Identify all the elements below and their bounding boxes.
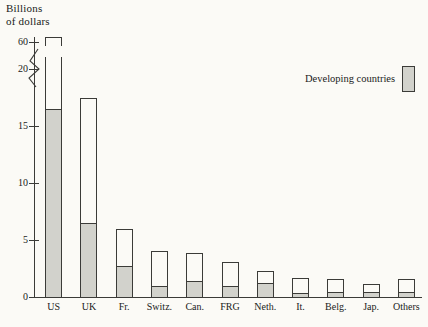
x-axis-label-frg: FRG	[220, 301, 239, 312]
bar-group-frg	[222, 262, 239, 297]
y-tick-0	[29, 297, 34, 298]
bar-group-others	[398, 279, 415, 297]
bar-total-jap	[363, 284, 380, 297]
y-tick-label-60: 60	[18, 37, 28, 47]
y-tick-label-20: 20	[18, 64, 28, 74]
bar-group-fr	[116, 229, 133, 297]
bars-container	[34, 37, 422, 297]
bar-developing-neth	[257, 283, 274, 297]
bar-group-belg	[327, 279, 344, 297]
x-axis-label-neth: Neth.	[254, 301, 276, 312]
x-axis-label-uk: UK	[82, 301, 96, 312]
bar-group-it	[292, 278, 309, 297]
bar-developing-others	[398, 292, 415, 297]
x-axis-label-it: It.	[296, 301, 305, 312]
y-tick-label-5: 5	[23, 235, 28, 245]
bar-group-jap	[363, 284, 380, 297]
bar-total-frg	[222, 262, 239, 297]
bar-total-it	[292, 278, 309, 297]
bar-developing-belg	[327, 292, 344, 297]
bar-group-can	[186, 253, 203, 297]
bar-group-switz	[151, 251, 168, 297]
bar-total-fr	[116, 229, 133, 297]
plot-area: 0510152060 USUKFr.Switz.Can.FRGNeth.It.B…	[34, 37, 422, 297]
y-axis-title: Billionsof dollars	[6, 2, 50, 28]
bar-group-neth	[257, 271, 274, 297]
bar-developing-us	[45, 109, 62, 297]
x-axis-label-us: US	[47, 301, 60, 312]
y-tick-label-15: 15	[18, 121, 28, 131]
bar-developing-fr	[116, 266, 133, 297]
x-axis-label-can: Can.	[185, 301, 204, 312]
bar-group-us	[45, 57, 62, 297]
bar-developing-it	[292, 293, 309, 297]
bar-developing-frg	[222, 286, 239, 297]
bar-developing-can	[186, 281, 203, 297]
bar-group-uk	[80, 98, 97, 298]
bar-total-belg	[327, 279, 344, 297]
bar-total-switz	[151, 251, 168, 297]
y-axis-title-line-1: Billions	[6, 2, 42, 14]
x-axis	[34, 297, 422, 298]
x-axis-label-belg: Belg.	[325, 301, 346, 312]
bar-total-us	[45, 57, 62, 297]
bar-total-neth	[257, 271, 274, 297]
y-axis-title-line-2: of dollars	[6, 15, 50, 27]
x-axis-label-switz: Switz.	[147, 301, 172, 312]
bar-developing-switz	[151, 286, 168, 297]
bar-cap-us	[45, 37, 62, 46]
bar-total-uk	[80, 98, 97, 298]
bar-total-can	[186, 253, 203, 297]
chart-root: Billionsof dollars Developing countries …	[0, 0, 428, 327]
bar-total-others	[398, 279, 415, 297]
bar-developing-uk	[80, 223, 97, 297]
x-axis-label-fr: Fr.	[119, 301, 130, 312]
y-tick-label-0: 0	[23, 292, 28, 302]
x-axis-label-jap: Jap.	[363, 301, 379, 312]
bar-developing-jap	[363, 292, 380, 297]
x-axis-label-others: Others	[393, 301, 420, 312]
y-tick-label-10: 10	[18, 178, 28, 188]
y-tick-inner-0	[35, 297, 39, 298]
